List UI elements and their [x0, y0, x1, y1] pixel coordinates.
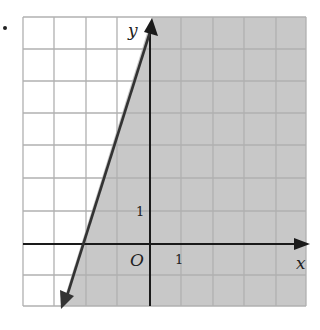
x-tick-label: 1: [175, 252, 183, 267]
inequality-graph: y x O 1 1: [0, 0, 320, 330]
y-axis-label: y: [127, 20, 138, 40]
x-axis-label: x: [296, 253, 306, 273]
shaded-region: [62, 17, 306, 306]
y-tick-label: 1: [136, 204, 144, 219]
origin-label: O: [130, 250, 144, 270]
bullet-marker: [3, 26, 7, 30]
